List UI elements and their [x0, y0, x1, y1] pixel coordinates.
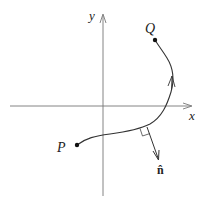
point-p — [75, 143, 79, 147]
x-axis-label: x — [188, 108, 195, 123]
y-axis-label: y — [87, 8, 95, 23]
curve-path — [77, 40, 173, 145]
point-q — [153, 38, 157, 42]
point-q-label: Q — [145, 21, 155, 36]
line-integral-diagram: x y n̂ P Q — [0, 0, 206, 203]
y-axis — [100, 14, 106, 196]
curve-direction-arrow-icon — [168, 76, 175, 90]
normal-vector-label: n̂ — [157, 163, 164, 177]
normal-vector — [147, 127, 159, 160]
point-p-label: P — [56, 140, 66, 155]
